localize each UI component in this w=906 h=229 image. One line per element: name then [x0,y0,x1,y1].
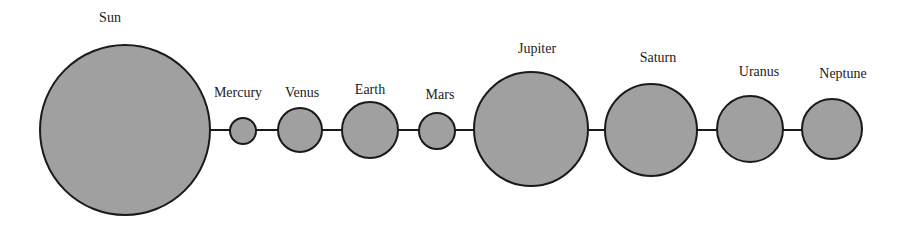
jupiter-label: Jupiter [518,41,556,56]
body-labels: SunMercuryVenusEarthMarsJupiterSaturnUra… [99,10,867,102]
venus-label: Venus [285,85,319,100]
mars-label: Mars [426,87,455,102]
uranus-label: Uranus [739,64,779,79]
mercury-label: Mercury [214,85,262,100]
neptune-circle [802,99,862,159]
mercury-circle [230,118,256,144]
sun-circle [40,45,210,215]
saturn-circle [605,84,697,176]
jupiter-circle [474,72,588,186]
mars-circle [419,113,455,149]
venus-circle [278,108,322,152]
uranus-circle [717,96,783,162]
earth-label: Earth [355,82,385,97]
sun-label: Sun [99,10,121,25]
diagram-canvas: SunMercuryVenusEarthMarsJupiterSaturnUra… [0,0,906,229]
solar-system-diagram: SunMercuryVenusEarthMarsJupiterSaturnUra… [0,0,906,229]
neptune-label: Neptune [819,66,866,81]
saturn-label: Saturn [640,50,677,65]
earth-circle [342,102,398,158]
